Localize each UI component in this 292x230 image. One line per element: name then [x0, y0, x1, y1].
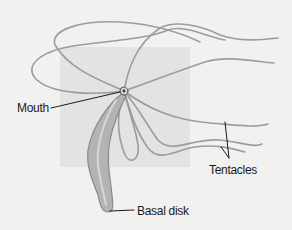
backdrop-square	[60, 47, 190, 167]
hydra-illustration	[0, 0, 292, 230]
hydra-diagram: Mouth Tentacles Basal disk	[0, 0, 292, 230]
mouth-icon	[120, 87, 128, 95]
basal-disk-label: Basal disk	[137, 205, 189, 217]
basal-disk-leader-line	[110, 210, 134, 211]
mouth-label: Mouth	[17, 102, 49, 114]
tentacles-label: Tentacles	[209, 164, 257, 176]
